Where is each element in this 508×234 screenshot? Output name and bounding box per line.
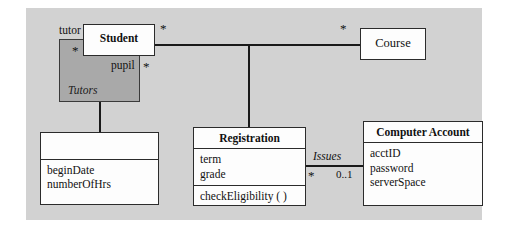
- class-registration-operations: checkEligibility ( ): [194, 186, 305, 207]
- multiplicity-student-course-left: *: [160, 22, 167, 35]
- class-registration[interactable]: Registration term grade checkEligibility…: [193, 127, 306, 206]
- class-student[interactable]: Student: [83, 24, 155, 56]
- attribute-row: acctID: [370, 146, 476, 160]
- attribute-row: numberOfHrs: [47, 177, 152, 191]
- association-line-student-course: [154, 44, 360, 46]
- attribute-row: beginDate: [47, 163, 152, 177]
- class-computer-account-name: Computer Account: [364, 122, 482, 142]
- multiplicity-student-course-right: *: [340, 22, 347, 35]
- multiplicity-pupil: *: [143, 60, 150, 73]
- uml-diagram-canvas: Tutors tutor * pupil * Student * * Cours…: [0, 0, 508, 234]
- association-line-registration-link: [248, 44, 250, 127]
- class-anonymous[interactable]: beginDate numberOfHrs: [40, 132, 159, 205]
- class-computer-account[interactable]: Computer Account acctID password serverS…: [363, 121, 483, 206]
- attribute-row: term: [200, 152, 299, 166]
- class-course-name: Course: [361, 29, 425, 53]
- class-computer-account-attributes: acctID password serverSpace: [364, 143, 482, 193]
- class-student-name: Student: [84, 25, 154, 48]
- association-line-issues: [305, 165, 363, 167]
- class-registration-attributes: term grade: [194, 149, 305, 185]
- attribute-row: serverSpace: [370, 175, 476, 189]
- class-anonymous-name: [41, 133, 158, 159]
- role-label-pupil: pupil: [111, 60, 135, 72]
- attribute-row: password: [370, 161, 476, 175]
- multiplicity-issues-account: 0..1: [336, 169, 353, 180]
- operation-row: checkEligibility ( ): [200, 189, 299, 203]
- multiplicity-tutor: *: [72, 44, 79, 57]
- diagram-panel: Tutors tutor * pupil * Student * * Cours…: [26, 8, 482, 220]
- class-course[interactable]: Course: [360, 28, 426, 60]
- multiplicity-issues-registration: *: [308, 169, 315, 182]
- attribute-row: grade: [200, 167, 299, 181]
- class-registration-name: Registration: [194, 128, 305, 148]
- association-line-tutors-attributes: [99, 102, 101, 132]
- association-class-tutors-label: Tutors: [68, 84, 97, 96]
- role-label-tutor: tutor: [59, 25, 81, 37]
- association-label-issues: Issues: [313, 151, 341, 163]
- class-anonymous-attributes: beginDate numberOfHrs: [41, 160, 158, 196]
